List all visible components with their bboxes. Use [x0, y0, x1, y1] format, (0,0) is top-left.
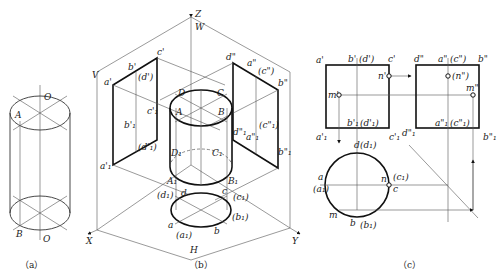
projection-figure: O A B O （a） Z W V X Y H a' b' c' (d') a [0, 0, 499, 280]
solid-label-c: C [217, 88, 224, 98]
w-label-a: a" [247, 58, 257, 68]
side-label-d1: d"₁ [402, 128, 416, 138]
top-label-m: m [329, 210, 338, 220]
solid-label-b: B [217, 107, 225, 117]
solid-label-a1: A₁ [166, 176, 177, 186]
label-o-top: O [44, 92, 52, 102]
h-label-c: c [222, 186, 227, 196]
plane-w: W [195, 22, 205, 32]
front-label-m: m' [328, 90, 339, 100]
top-label-c: c [393, 184, 398, 194]
caption-b: （b） [189, 260, 213, 270]
h-label-b1: (b₁) [232, 212, 249, 222]
h-label-b: b [214, 226, 220, 236]
front-label-b1: b'₁ [347, 118, 359, 128]
w-label-c: (c") [258, 66, 275, 76]
front-label-d1: (d'₁) [360, 118, 379, 128]
h-label-c1: (c₁) [233, 192, 249, 202]
w-label-c1: (c"₁) [259, 120, 279, 130]
front-label-d: (d') [359, 54, 375, 64]
w-label-b1: b"₁ [278, 147, 292, 157]
solid-label-b1: B₁ [227, 176, 238, 186]
v-label-a: a' [104, 77, 112, 87]
side-label-c1: (c"₁) [450, 118, 470, 128]
plane-v: V [92, 70, 100, 80]
top-label-n: n [381, 174, 387, 184]
top-label-d1: (d₁) [360, 140, 377, 150]
solid-label-a: A [175, 107, 183, 117]
v-label-b: b' [128, 62, 136, 72]
axis-x: X [85, 236, 93, 246]
side-label-b: b" [478, 54, 488, 64]
w-label-b: b" [278, 78, 288, 88]
w-label-d1: d"₁ [233, 127, 247, 137]
side-label-a1: a"₁ [435, 118, 448, 128]
label-o-bottom: O [43, 234, 51, 244]
panel-b-isometric: Z W V X Y H a' b' c' (d') a'₁ b'₁ c'₁ (d… [85, 9, 300, 270]
v-label-d1: (d'₁) [138, 142, 157, 152]
h-label-a1: (a₁) [176, 230, 192, 240]
caption-c: （c） [398, 260, 421, 270]
front-label-c1: c'₁ [389, 132, 400, 142]
top-label-b1: (b₁) [360, 220, 377, 230]
side-label-a: a" [438, 54, 448, 64]
front-label-a: a' [316, 55, 324, 65]
panel-c-three-view: a' b' (d') c' n' m' b'₁ (d'₁) a'₁ c'₁ d"… [313, 54, 497, 270]
label-a: A [14, 110, 22, 120]
label-b: B [15, 229, 23, 239]
h-label-a: a [168, 220, 173, 230]
solid-label-d: D [177, 88, 185, 98]
front-label-b: b' [348, 54, 356, 64]
top-label-a: a [318, 172, 323, 182]
top-label-c1: (c₁) [393, 172, 409, 182]
h-label-d1: (d₁) [157, 190, 174, 200]
top-label-b: b [350, 218, 356, 228]
side-label-m: m" [466, 83, 479, 93]
solid-label-c1: C₁ [212, 148, 223, 158]
v-label-a1: a'₁ [100, 161, 111, 171]
v-label-c1: c'₁ [147, 106, 158, 116]
front-label-a1: a'₁ [316, 132, 327, 142]
side-label-c: (c") [450, 54, 467, 64]
axis-y: Y [292, 236, 299, 246]
axis-z: Z [194, 9, 202, 19]
solid-label-d1: D₁ [170, 148, 182, 158]
v-label-c: c' [157, 47, 165, 57]
top-label-a1: (a₁) [313, 184, 329, 194]
h-label-d: d [181, 188, 187, 198]
v-label-d: (d') [138, 72, 154, 82]
plane-h: H [189, 245, 198, 255]
front-label-n: n' [378, 71, 386, 81]
side-label-n: (n") [452, 71, 469, 81]
w-label-a1: a"₁ [246, 132, 259, 142]
caption-a: （a） [20, 260, 43, 270]
side-label-b1: b"₁ [483, 132, 497, 142]
v-label-b1: b'₁ [124, 120, 136, 130]
w-label-d: d" [226, 52, 236, 62]
front-label-c: c' [388, 54, 396, 64]
panel-a-cylinder: O A B O （a） [10, 85, 70, 270]
side-label-d: d" [414, 54, 424, 64]
